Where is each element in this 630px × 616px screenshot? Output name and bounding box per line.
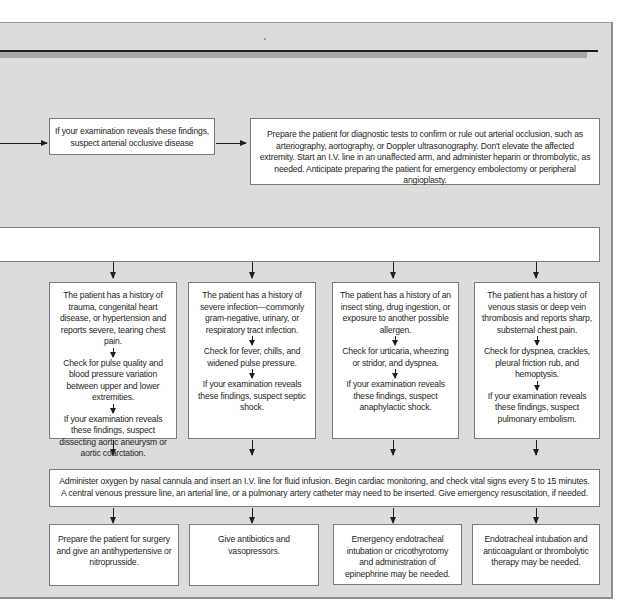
occlusive-action-text: Prepare the patient for diagnostic tests… xyxy=(259,129,591,187)
arrow-to-branch-3 xyxy=(393,262,394,278)
arrow-down-icon xyxy=(113,348,114,357)
arrow-to-intervention-2 xyxy=(252,440,253,455)
arrow-to-treatment-4 xyxy=(536,508,537,523)
treatment-box-septic: Give antibiotics and vasopressors. xyxy=(189,524,319,586)
treatment-box-aortic: Prepare the patient for surgery and give… xyxy=(49,524,179,586)
branch-3-check: Check for urticaria, wheezing or stridor… xyxy=(339,346,452,369)
arrow-to-treatment-3 xyxy=(393,508,394,523)
branch-2-check: Check for fever, chills, and widened pul… xyxy=(195,346,309,369)
occlusive-finding-box: If your examination reveals these findin… xyxy=(49,118,215,155)
arrow-to-intervention-1 xyxy=(113,440,114,455)
common-intervention-text: Administer oxygen by nasal cannula and i… xyxy=(56,476,593,499)
branch-box-aortic: The patient has a history of trauma, con… xyxy=(49,282,177,439)
arrow-to-treatment-2 xyxy=(252,508,253,523)
occlusive-action-box: Prepare the patient for diagnostic tests… xyxy=(250,118,600,185)
branch-box-pulmonary: The patient has a history of venous stas… xyxy=(474,282,600,439)
wide-header-box xyxy=(0,227,600,262)
common-intervention-box: Administer oxygen by nasal cannula and i… xyxy=(49,469,600,507)
arrow-down-icon xyxy=(395,369,396,378)
arrow-down-icon xyxy=(113,404,114,413)
occlusive-finding-text: If your examination reveals these findin… xyxy=(54,126,210,149)
arrow-to-treatment-1 xyxy=(113,508,114,523)
arrow-down-icon xyxy=(252,336,253,345)
branch-3-history: The patient has a history of an insect s… xyxy=(339,290,452,336)
treatment-4-text: Endotracheal intubation and anticoagulan… xyxy=(479,534,593,569)
branch-4-finding: If your examination reveals these findin… xyxy=(481,391,593,426)
branch-3-finding: If your examination reveals these findin… xyxy=(339,379,452,414)
branch-2-finding: If your examination reveals these findin… xyxy=(195,379,309,414)
branch-box-anaphylactic: The patient has a history of an insect s… xyxy=(332,282,459,439)
arrow-down-icon xyxy=(395,336,396,345)
arrow-to-branch-1 xyxy=(113,262,114,278)
speck xyxy=(264,38,266,40)
treatment-2-text: Give antibiotics and vasopressors. xyxy=(196,534,312,557)
arrow-to-branch-4 xyxy=(536,262,537,278)
branch-2-history: The patient has a history of severe infe… xyxy=(195,290,309,336)
arrow-to-intervention-4 xyxy=(536,440,537,455)
branch-1-check: Check for pulse quality and blood pressu… xyxy=(56,358,170,404)
branch-1-history: The patient has a history of trauma, con… xyxy=(56,290,170,348)
branch-4-history: The patient has a history of venous stas… xyxy=(481,290,593,336)
arrow-down-icon xyxy=(252,369,253,378)
treatment-3-text: Emergency endotracheal intubation or cri… xyxy=(340,534,455,580)
header-rule-shadow xyxy=(0,52,587,58)
arrow-down-icon xyxy=(537,336,538,345)
arrow-to-branch-2 xyxy=(252,262,253,278)
treatment-box-pulmonary: Endotracheal intubation and anticoagulan… xyxy=(472,524,600,585)
arrow-to-occlusive-action xyxy=(216,143,246,144)
branch-4-check: Check for dyspnea, crackles, pleural fri… xyxy=(481,346,593,381)
treatment-1-text: Prepare the patient for surgery and give… xyxy=(56,534,172,569)
arrow-to-occlusive-finding xyxy=(0,143,47,144)
branch-box-septic: The patient has a history of severe infe… xyxy=(188,282,316,439)
arrow-down-icon xyxy=(537,381,538,390)
arrow-to-intervention-3 xyxy=(393,440,394,455)
treatment-box-anaphylactic: Emergency endotracheal intubation or cri… xyxy=(333,524,462,585)
